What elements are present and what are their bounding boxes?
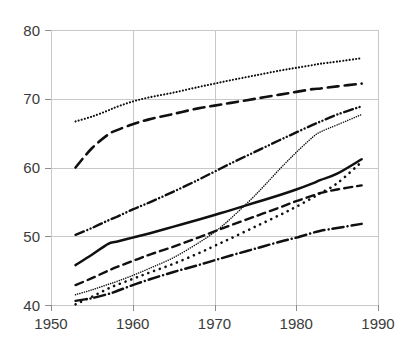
y-axis-tick-label: 40 xyxy=(23,297,40,314)
series-line-8 xyxy=(76,224,362,301)
x-axis-tick-label: 1990 xyxy=(361,315,394,332)
x-axis-tick-labels: 19501960197019801990 xyxy=(34,315,394,332)
line-chart: 4050607080 19501960197019801990 xyxy=(0,0,410,359)
y-axis-tick-labels: 4050607080 xyxy=(23,22,40,314)
series-line-3 xyxy=(76,106,362,235)
series-line-5 xyxy=(76,159,362,265)
gridlines-group xyxy=(51,30,379,306)
x-axis-tick-label: 1960 xyxy=(116,315,149,332)
x-axis-tick-label: 1980 xyxy=(280,315,313,332)
y-axis-tick-label: 60 xyxy=(23,159,40,176)
y-axis-tick-label: 70 xyxy=(23,90,40,107)
tickmarks-group xyxy=(45,31,379,312)
chart-canvas: 4050607080 19501960197019801990 xyxy=(0,0,410,359)
series-line-7 xyxy=(76,185,362,285)
series-line-6 xyxy=(76,162,362,304)
x-axis-tick-label: 1970 xyxy=(198,315,231,332)
series-line-2 xyxy=(76,84,362,168)
y-axis-tick-label: 50 xyxy=(23,228,40,245)
y-axis-tick-label: 80 xyxy=(23,22,40,39)
series-group xyxy=(76,58,362,304)
x-axis-tick-label: 1950 xyxy=(34,315,67,332)
